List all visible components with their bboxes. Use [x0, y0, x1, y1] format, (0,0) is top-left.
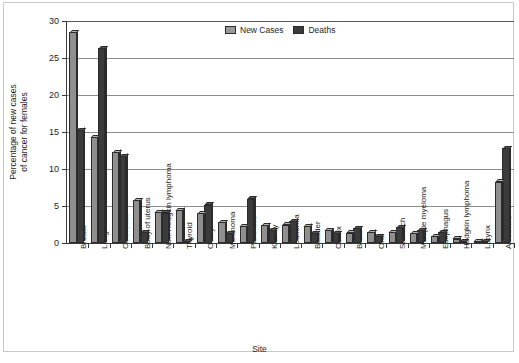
x-axis-tick-8 [259, 243, 260, 248]
y-axis-title-line-1: Percentage of new cases [8, 84, 19, 179]
bar-group [282, 21, 296, 243]
bar-new-cases [176, 210, 183, 243]
bar-front-face [133, 200, 140, 243]
bar-new-cases [453, 239, 460, 243]
bar-new-cases [112, 152, 119, 243]
bar-new-cases [261, 225, 268, 243]
bar-new-cases [197, 213, 204, 243]
bar-front-face [112, 152, 119, 243]
chart-figure: New Cases Deaths Percentage of new cases… [0, 0, 519, 363]
y-axis-label-0: 0 [54, 239, 59, 248]
bar-deaths [460, 241, 467, 243]
bar-new-cases [325, 230, 332, 243]
bar-front-face [69, 32, 76, 243]
bar-new-cases [282, 225, 289, 244]
bar-front-face [91, 137, 98, 243]
x-axis-tick-13 [365, 243, 366, 248]
bar-group [69, 21, 83, 243]
bar-front-face [431, 236, 438, 243]
y-axis-tick-15 [62, 132, 67, 133]
bar-group [495, 21, 509, 243]
x-axis-tick-20 [514, 243, 515, 248]
y-axis-tick-0 [62, 243, 67, 244]
x-axis-tick-3 [152, 243, 153, 248]
bar-front-face [325, 230, 332, 243]
x-axis-tick-1 [110, 243, 111, 248]
bar-group [346, 21, 360, 243]
bar-new-cases [410, 233, 417, 243]
bar-front-face [218, 222, 225, 243]
bar-front-face [282, 225, 289, 244]
bar-front-face [197, 213, 204, 243]
y-axis-tick-20 [62, 95, 67, 96]
y-axis-tick-30 [62, 21, 67, 22]
x-axis-tick-2 [131, 243, 132, 248]
x-axis-tick-9 [280, 243, 281, 248]
y-axis-label-10: 10 [49, 165, 59, 174]
bar-top-face [396, 225, 406, 228]
bar-new-cases [69, 32, 76, 243]
bar-group [240, 21, 254, 243]
x-axis-category-label: Thyroid [186, 222, 194, 249]
bar-group [218, 21, 232, 243]
x-axis-tick-15 [408, 243, 409, 248]
bar-front-face [410, 233, 417, 243]
bar-front-face [495, 182, 502, 243]
x-axis-tick-7 [237, 243, 238, 248]
bar-group [91, 21, 105, 243]
bar-group [304, 21, 318, 243]
x-axis-tick-4 [173, 243, 174, 248]
y-axis-label-20: 20 [49, 91, 59, 100]
bar-front-face [240, 226, 247, 243]
bar-top-face [112, 150, 122, 153]
bar-new-cases [495, 182, 502, 243]
bar-new-cases [218, 222, 225, 243]
y-axis-label-15: 15 [49, 128, 59, 137]
y-axis-tick-10 [62, 169, 67, 170]
bar-front-face [367, 232, 374, 243]
x-axis-category-label: Larynx [484, 225, 492, 249]
x-axis-tick-19 [493, 243, 494, 248]
y-axis-tick-25 [62, 58, 67, 59]
bar-front-face [176, 210, 183, 243]
bar-new-cases [431, 236, 438, 243]
y-axis-title: Percentage of new cases of cancer for fe… [8, 84, 29, 179]
bar-front-face [453, 239, 460, 243]
y-axis-label-30: 30 [49, 17, 59, 26]
bar-front-face [389, 232, 396, 243]
bar-group [325, 21, 339, 243]
bar-new-cases [91, 137, 98, 243]
bar-new-cases [389, 232, 396, 243]
x-axis-title: Site [0, 344, 519, 354]
x-axis-tick-11 [322, 243, 323, 248]
y-axis-title-line-2: of cancer for females [18, 84, 29, 179]
bar-new-cases [346, 233, 353, 243]
bar-group [389, 21, 403, 243]
bar-front-face [304, 226, 311, 243]
bar-front-face [346, 233, 353, 243]
bar-group [155, 21, 169, 243]
x-axis-tick-14 [386, 243, 387, 248]
bar-group [261, 21, 275, 243]
x-axis-tick-16 [429, 243, 430, 248]
x-axis-tick-17 [450, 243, 451, 248]
bar-group [367, 21, 381, 243]
x-axis-tick-12 [344, 243, 345, 248]
bar-group [197, 21, 211, 243]
bar-new-cases [474, 241, 481, 243]
x-axis-tick-10 [301, 243, 302, 248]
bar-new-cases [367, 232, 374, 243]
bar-new-cases [133, 200, 140, 243]
x-axis-tick-5 [195, 243, 196, 248]
bar-group [474, 21, 488, 243]
y-axis-label-25: 25 [49, 54, 59, 63]
bar-front-face [261, 225, 268, 243]
bar-new-cases [155, 212, 162, 243]
y-axis-tick-5 [62, 206, 67, 207]
bar-front-face [155, 212, 162, 243]
bar-new-cases [240, 226, 247, 243]
x-axis-tick-18 [471, 243, 472, 248]
y-axis-label-5: 5 [54, 202, 59, 211]
x-axis-tick-0 [88, 243, 89, 248]
bar-group [176, 21, 190, 243]
